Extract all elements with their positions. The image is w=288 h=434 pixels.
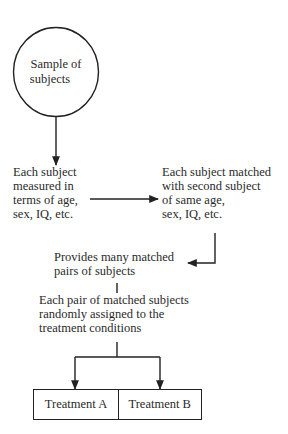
treatment-b-label: Treatment B (128, 397, 190, 412)
start-line-2: subjects (30, 72, 70, 87)
treatment-a-label: Treatment A (45, 397, 107, 412)
treatment-b-box: Treatment B (118, 389, 202, 420)
step4-assign-node: Each pair of matched subjects randomly a… (39, 293, 189, 335)
flowchart-canvas: Sample of subjects Each subject measured… (0, 0, 288, 434)
start-node-label: Sample of subjects (13, 27, 99, 117)
step2-line-3: of same age, (162, 193, 271, 207)
step3-line-2: pairs of subjects (54, 264, 174, 278)
step3-pairs-node: Provides many matched pairs of subjects (54, 250, 174, 278)
step2-line-2: with second subject (162, 179, 271, 193)
start-line-1: Sample of (30, 57, 81, 72)
treatment-a-box: Treatment A (33, 389, 119, 420)
step2-line-1: Each subject matched (162, 165, 271, 179)
step4-line-1: Each pair of matched subjects (39, 293, 189, 307)
step1-line-1: Each subject (13, 165, 78, 179)
step1-line-3: terms of age, (13, 193, 78, 207)
step4-line-2: randomly assigned to the (39, 307, 189, 321)
step1-line-2: measured in (13, 179, 78, 193)
step2-match-node: Each subject matched with second subject… (162, 165, 271, 221)
arrow-step2-to-step3 (188, 233, 215, 263)
step4-line-3: treatment conditions (39, 321, 189, 335)
step1-measure-node: Each subject measured in terms of age, s… (13, 165, 78, 221)
step1-line-4: sex, IQ, etc. (13, 207, 78, 221)
step3-line-1: Provides many matched (54, 250, 174, 264)
step2-line-4: sex, IQ, etc. (162, 207, 271, 221)
